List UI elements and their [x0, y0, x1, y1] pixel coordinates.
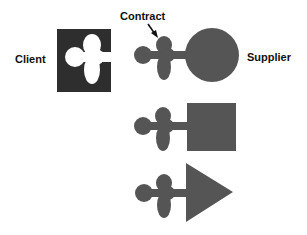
- client-block: [57, 29, 111, 92]
- diagram-canvas: [0, 0, 307, 235]
- supplier-square-shape: [134, 103, 236, 151]
- supplier-circle-shape: [134, 28, 239, 82]
- contract-arrow-icon: [148, 24, 158, 38]
- supplier-triangle-shape: [135, 163, 233, 222]
